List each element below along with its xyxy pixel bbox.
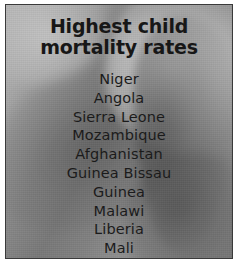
list-item: Afghanistan <box>6 145 232 164</box>
infographic-figure: Highest child mortality rates Niger Ango… <box>0 0 244 270</box>
list-item: Niger <box>6 70 232 89</box>
list-item: Guinea <box>6 183 232 202</box>
list-item: Mozambique <box>6 126 232 145</box>
title-line-1: Highest child <box>6 16 232 37</box>
photo-panel: Highest child mortality rates Niger Ango… <box>5 4 233 259</box>
title-line-2: mortality rates <box>6 37 232 58</box>
list-item: Sierra Leone <box>6 108 232 127</box>
country-list: Niger Angola Sierra Leone Mozambique Afg… <box>6 58 232 258</box>
page-title: Highest child mortality rates <box>6 5 232 58</box>
list-item: Liberia <box>6 220 232 239</box>
list-item: Angola <box>6 89 232 108</box>
list-item: Guinea Bissau <box>6 164 232 183</box>
caption-overlay: Highest child mortality rates Niger Ango… <box>6 5 232 258</box>
list-item: Malawi <box>6 202 232 221</box>
list-item: Mali <box>6 239 232 258</box>
